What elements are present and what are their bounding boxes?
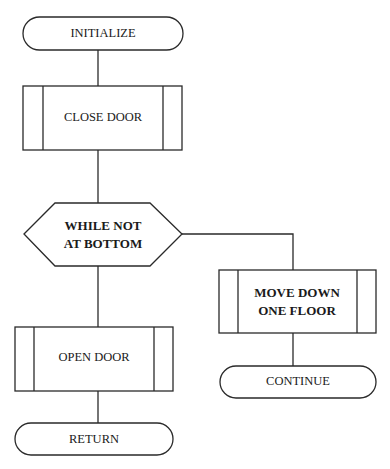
node-open-door: OPEN DOOR (15, 327, 173, 391)
node-continue: CONTINUE (220, 366, 376, 398)
node-label-line-2: ONE FLOOR (258, 303, 336, 318)
node-label: OPEN DOOR (58, 350, 130, 364)
node-label-line-1: MOVE DOWN (254, 285, 340, 300)
process-shape (219, 270, 376, 333)
flowchart-canvas: INITIALIZE CLOSE DOOR WHILE NOT AT BOTTO… (0, 0, 390, 469)
node-label-line-2: AT BOTTOM (64, 236, 142, 251)
loop-hexagon-shape (24, 203, 182, 266)
node-label-line-1: WHILE NOT (65, 218, 142, 233)
node-label: CONTINUE (266, 374, 330, 388)
node-label: RETURN (69, 432, 119, 446)
edge-while-move-down (182, 234, 293, 270)
node-while-not-at-bottom: WHILE NOT AT BOTTOM (24, 203, 182, 266)
node-label: INITIALIZE (70, 26, 136, 40)
node-move-down: MOVE DOWN ONE FLOOR (219, 270, 376, 333)
node-label: CLOSE DOOR (64, 110, 143, 124)
node-return: RETURN (15, 423, 173, 455)
node-close-door: CLOSE DOOR (23, 86, 182, 150)
node-initialize: INITIALIZE (23, 17, 183, 50)
